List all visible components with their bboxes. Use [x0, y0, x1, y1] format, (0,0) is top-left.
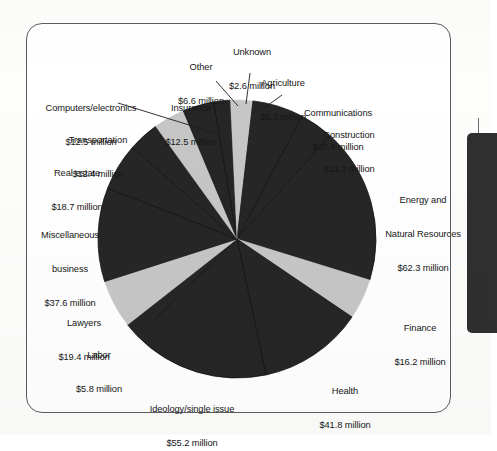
slice-label-ideology-value: $55.2 million — [132, 438, 252, 449]
slice-label-insurance-name: Insurance — [152, 103, 230, 114]
slice-label-misc-business-value: $37.6 million — [24, 298, 116, 309]
slice-label-insurance-value: $12.5 million — [152, 137, 230, 148]
slice-label-ideology: Ideology/single issue $55.2 million — [132, 382, 252, 451]
slice-label-ideology-name: Ideology/single issue — [132, 404, 252, 415]
slice-label-energy-value: $62.3 million — [371, 263, 475, 274]
slice-label-insurance: Insurance $12.5 million — [152, 81, 230, 171]
slice-label-lawyers-value: $19.4 million — [42, 352, 126, 363]
slice-label-finance: Finance $16.2 million — [378, 301, 462, 391]
slice-label-computers-name: Computers/electronics — [29, 103, 153, 114]
slice-label-computers: Computers/electronics $12.5 million — [29, 81, 153, 171]
slice-label-energy-name-line2: Natural Resources — [371, 229, 475, 240]
slice-label-health-name: Health — [304, 386, 386, 397]
slice-label-finance-name: Finance — [378, 323, 462, 334]
slice-label-finance-value: $16.2 million — [378, 357, 462, 368]
slice-label-misc-business-name-line2: business — [24, 264, 116, 275]
slice-label-labor-value: $5.8 million — [60, 384, 138, 395]
slice-label-health: Health $41.8 million — [304, 364, 386, 451]
slice-label-energy: Energy and Natural Resources $62.3 milli… — [371, 173, 475, 296]
slice-label-construction-name: Construction — [305, 130, 393, 141]
slice-label-energy-name-line1: Energy and — [371, 195, 475, 206]
slice-label-transportation-value: $12.4 million — [50, 169, 146, 180]
slice-label-computers-value: $12.5 million — [29, 137, 153, 148]
slice-label-real-estate-value: $18.7 million — [34, 202, 120, 213]
slice-label-health-value: $41.8 million — [304, 420, 386, 431]
